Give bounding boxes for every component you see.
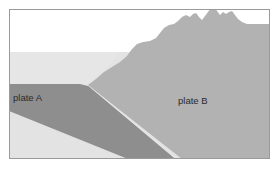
plate-b-label: plate B: [178, 95, 208, 106]
subduction-diagram: plate A plate B: [0, 0, 278, 169]
plate-a-label: plate A: [13, 92, 43, 103]
cross-section-svg: plate A plate B: [0, 0, 278, 169]
